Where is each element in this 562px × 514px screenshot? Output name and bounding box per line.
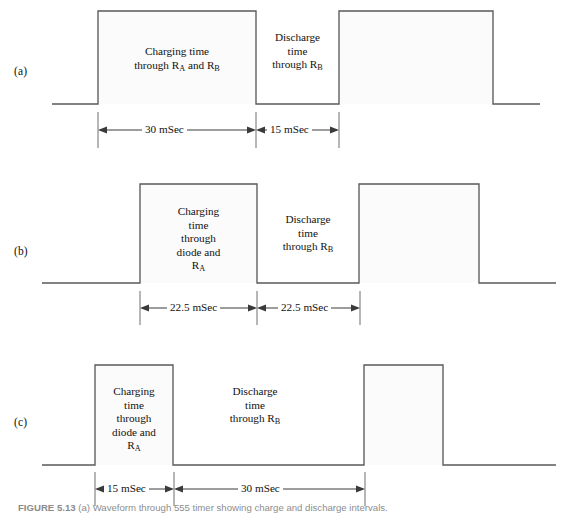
pulse-c-charging-line5: RA [91,439,177,453]
dim-label-c-1: 15 mSec [104,482,149,494]
gap-c-discharge-line2: time [190,399,320,413]
pulse-c-2-fill [364,365,443,465]
dim-arrow-a-1-left [98,127,107,134]
dim-arrow-b-1-left [140,305,149,312]
row-label-b: (b) [14,245,28,257]
pulse-a-2-fill [339,11,493,104]
dim-arrow-c-1-left [95,486,104,493]
gap-c-discharge-text: Discharge time through RB [190,385,320,426]
dim-label-b-2: 22.5 mSec [278,301,331,313]
pulse-a-charging-line2: through RA and RB [98,59,256,73]
gap-a-discharge-line2: time [256,45,339,59]
figure-caption-text: (a) Waveform through 555 timer showing c… [78,502,387,513]
pulse-b-2-fill [359,184,479,283]
pulse-b-charging-line5: RA [140,259,257,273]
pulse-b-charging-line4: diode and [140,246,257,260]
waveform-svg [0,0,562,514]
pulse-a-charging-l2-pre: through R [134,59,179,71]
gap-a-discharge-l3-pre: through R [272,58,317,70]
dim-arrow-a-1-right [247,127,256,134]
gap-b-discharge-line1: Discharge [257,213,359,227]
gap-c-discharge-line1: Discharge [190,385,320,399]
gap-a-discharge-l3-sub: B [317,63,322,72]
pulse-c-charging-line1: Charging [91,385,177,399]
dim-label-b-1: 22.5 mSec [167,301,220,313]
pulse-c-charging-text: Charging time through diode and RA [91,385,177,453]
pulse-b-charging-text: Charging time through diode and RA [140,205,257,273]
pulse-c-charging-l5-sub: A [135,444,141,453]
gap-c-discharge-l3-sub: B [275,417,280,426]
dim-label-a-2: 15 mSec [267,123,312,135]
pulse-c-charging-line3: through [91,412,177,426]
dim-arrow-c-2-left [174,486,183,493]
dim-label-a-1: 30 mSec [142,123,187,135]
gap-b-discharge-line2: time [257,227,359,241]
dim-arrow-b-2-right [351,305,360,312]
gap-b-discharge-l3-sub: B [328,245,333,254]
pulse-a-charging-text: Charging time through RA and RB [98,45,256,72]
row-label-a: (a) [14,65,27,77]
pulse-b-charging-line1: Charging [140,205,257,219]
dim-label-c-2: 30 mSec [238,482,283,494]
pulse-a-charging-l2-mid: and R [185,59,214,71]
dim-arrow-b-1-right [248,305,257,312]
row-label-c: (c) [14,416,27,428]
dim-arrow-a-2-right [330,127,339,134]
pulse-c-charging-line2: time [91,399,177,413]
gap-c-discharge-line3: through RB [190,412,320,426]
pulse-b-charging-line3: through [140,232,257,246]
gap-a-discharge-text: Discharge time through RB [256,31,339,72]
pulse-c-charging-line4: diode and [91,426,177,440]
pulse-b-charging-l5-sub: A [199,264,205,273]
gap-c-discharge-l3-pre: through R [230,412,275,424]
pulse-a-charging-l2-sub2: B [214,63,219,72]
pulse-a-charging-line1: Charging time [98,45,256,59]
gap-b-discharge-l3-pre: through R [283,240,328,252]
gap-a-discharge-line1: Discharge [256,31,339,45]
dim-arrow-c-2-right [356,486,365,493]
figure-caption: FIGURE 5.13 (a) Waveform through 555 tim… [18,502,388,513]
gap-b-discharge-text: Discharge time through RB [257,213,359,254]
gap-a-discharge-line3: through RB [256,58,339,72]
dim-arrow-a-2-left [256,127,265,134]
pulse-c-charging-l5-pre: R [127,439,134,451]
pulse-b-charging-line2: time [140,219,257,233]
figure-caption-prefix: FIGURE 5.13 [18,502,76,513]
dim-arrow-b-2-left [257,305,266,312]
gap-b-discharge-line3: through RB [257,240,359,254]
dim-arrow-c-1-right [165,486,174,493]
figure-canvas: (a) Charging time through RA and RB Disc… [0,0,562,514]
